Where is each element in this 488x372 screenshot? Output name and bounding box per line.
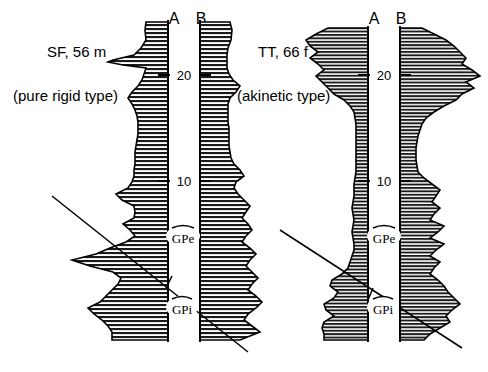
panel-left-nucleus-gpi: GPi: [166, 296, 198, 318]
panel-right-gpe-label: GPe: [373, 231, 396, 246]
panel-right-nucleus-gpe: GPe: [367, 225, 401, 247]
panel-left-tick-label-20: 20: [177, 68, 191, 83]
panel-left-nucleus-gpe: GPe: [166, 225, 200, 247]
panel-left-tick-label-10: 10: [177, 174, 191, 189]
panel-left-gpi-label: GPi: [172, 302, 193, 317]
panel-right-type-label: (akinetic type): [237, 87, 330, 104]
depth-profile-figure: SF, 56 m (pure rigid type) A B 20 10: [0, 0, 488, 372]
panel-left-track-a-label: A: [169, 10, 180, 27]
panel-left-gpe-label: GPe: [172, 231, 195, 246]
panel-right-subject-label: TT, 66 f: [258, 43, 309, 60]
panel-right-tick-label-20: 20: [377, 68, 391, 83]
panel-left-subject-label: SF, 56 m: [47, 43, 106, 60]
figure-root: SF, 56 m (pure rigid type) A B 20 10: [0, 0, 488, 372]
panel-left-type-label: (pure rigid type): [13, 87, 118, 104]
panel-right-gpi-label: GPi: [373, 302, 394, 317]
panel-right-track-a-label: A: [369, 10, 380, 27]
panel-right-nucleus-gpi: GPi: [367, 296, 399, 318]
panel-right-tick-label-10: 10: [377, 174, 391, 189]
panel-right-track-b-label: B: [396, 10, 407, 27]
